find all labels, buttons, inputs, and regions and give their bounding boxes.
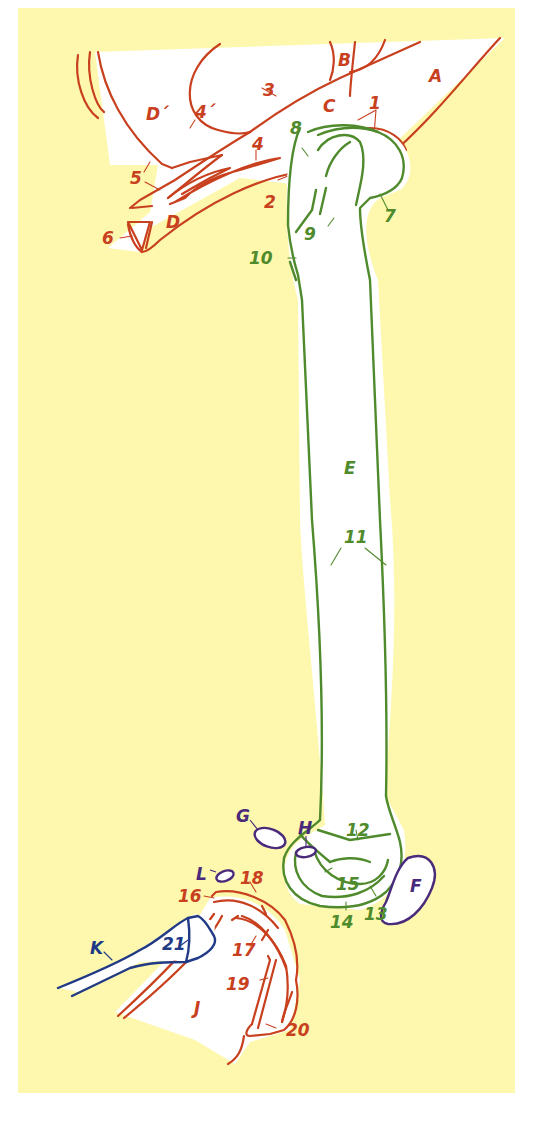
- label-b: B: [338, 50, 351, 70]
- label-10: 10: [249, 248, 273, 268]
- label-11: 11: [344, 527, 368, 547]
- sesamoid-l: [215, 868, 235, 884]
- label-e: E: [344, 458, 356, 478]
- label-15: 15: [336, 874, 360, 894]
- label-13: 13: [364, 904, 388, 924]
- label-4-prime: 4´: [194, 102, 217, 122]
- tibia: [115, 882, 300, 1064]
- label-a: A: [427, 66, 442, 86]
- label-18: 18: [240, 868, 264, 888]
- label-5: 5: [130, 168, 142, 188]
- label-g: G: [236, 806, 250, 826]
- label-d: D: [166, 212, 180, 232]
- label-8: 8: [290, 118, 302, 138]
- label-4: 4: [251, 134, 264, 154]
- label-20: 20: [286, 1020, 310, 1040]
- label-1: 1: [369, 93, 381, 113]
- label-k: K: [90, 938, 105, 958]
- label-2: 2: [264, 192, 276, 212]
- label-19: 19: [226, 974, 250, 994]
- label-12: 12: [346, 820, 370, 840]
- label-c: C: [323, 96, 336, 116]
- femur: [283, 125, 410, 910]
- label-3: 3: [263, 80, 275, 100]
- label-6: 6: [102, 228, 114, 248]
- label-f: F: [410, 876, 422, 896]
- label-d-prime: D´: [146, 104, 170, 124]
- label-l: L: [196, 864, 207, 884]
- label-9: 9: [304, 224, 316, 244]
- label-h: H: [298, 818, 312, 838]
- label-17: 17: [232, 940, 256, 960]
- label-21: 21: [162, 934, 186, 954]
- label-16: 16: [178, 886, 202, 906]
- anatomical-figure: A B C 1 3 D´ 4´ 4 5 2 D 6 8 7 9 10 E 11 …: [0, 0, 542, 1131]
- label-14: 14: [330, 912, 354, 932]
- label-7: 7: [384, 206, 396, 226]
- sesamoid-g: [252, 824, 288, 852]
